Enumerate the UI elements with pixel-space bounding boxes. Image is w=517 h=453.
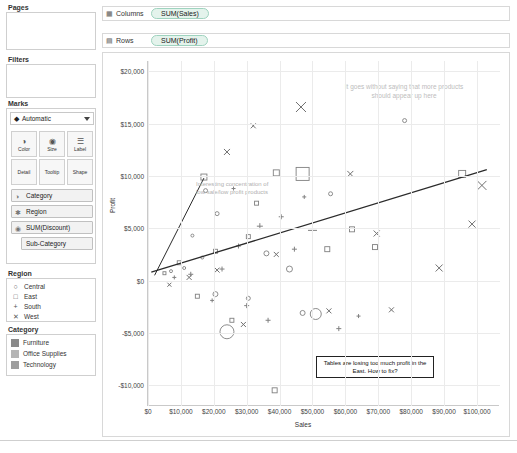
color-palette-icon: ◑ (22, 137, 27, 146)
data-point-east[interactable] (195, 294, 199, 298)
marks-card-title: Marks (8, 100, 28, 107)
marks-pill-region[interactable]: ✱ Region (11, 205, 93, 218)
rows-shelf[interactable]: ▤ Rows SUM(Profit) (102, 33, 510, 48)
data-point-east[interactable] (296, 167, 309, 180)
detail-button[interactable]: Detail (11, 159, 37, 185)
data-point-west[interactable] (224, 149, 230, 155)
data-point-central[interactable] (220, 325, 234, 339)
marks-buttons-row-1: ◑ Color ◉ Size ☰ Label (11, 131, 93, 157)
marks-pill-category[interactable]: ◑ Category (11, 189, 93, 202)
tableau-worksheet: Pages Filters Marks ◆ Automatic ◑ Color … (0, 0, 517, 453)
data-point-south[interactable] (336, 326, 341, 331)
rows-field-pill[interactable]: SUM(Profit) (151, 35, 208, 46)
data-point-west[interactable] (477, 181, 486, 190)
region-legend: ○ Central □ East + South ✕ West (6, 278, 96, 322)
data-point-south[interactable] (220, 267, 225, 272)
color-swatch (11, 361, 19, 369)
y-axis-tick: $10,000 (121, 173, 145, 180)
legend-item-technology[interactable]: Technology (11, 360, 56, 369)
data-point-central[interactable] (286, 266, 292, 272)
data-point-central[interactable] (329, 192, 333, 196)
mark-type-dropdown[interactable]: ◆ Automatic (10, 112, 94, 125)
tooltip-button[interactable]: Tooltip (39, 159, 65, 185)
data-point-south[interactable] (172, 275, 176, 279)
x-axis-tick: $90,000 (432, 408, 456, 415)
x-axis-tick: $0 (144, 408, 151, 415)
data-point-west[interactable] (296, 102, 306, 112)
legend-label: East (24, 293, 37, 300)
x-axis-tick: $70,000 (367, 408, 391, 415)
columns-shelf[interactable]: ▦ Columns SUM(Sales) (102, 6, 510, 21)
size-circle-icon: ◉ (15, 225, 21, 233)
annotation-left: Interesting concentration of low sale/lo… (196, 181, 278, 196)
size-button[interactable]: ◉ Size (39, 131, 65, 157)
data-point-west[interactable] (469, 221, 476, 228)
category-legend: Furniture Office Supplies Technology (6, 334, 96, 376)
data-point-central[interactable] (215, 212, 219, 216)
legend-item-west[interactable]: ✕ West (11, 312, 39, 321)
legend-item-east[interactable]: □ East (11, 292, 37, 301)
filters-shelf-title: Filters (8, 56, 29, 63)
gridline-vertical (411, 61, 412, 406)
x-axis-tick: $30,000 (235, 408, 259, 415)
color-swatch (11, 339, 19, 347)
gridline-horizontal (148, 333, 500, 334)
marks-pill-subcategory[interactable]: Sub-Category (21, 237, 93, 250)
legend-item-office-supplies[interactable]: Office Supplies (11, 349, 67, 358)
size-button-label: Size (47, 146, 57, 152)
data-point-central[interactable] (403, 119, 407, 123)
data-point-west[interactable] (274, 252, 279, 257)
data-point-west[interactable] (215, 268, 220, 273)
data-point-east[interactable] (272, 388, 277, 393)
y-axis-tick: $5,000 (124, 225, 144, 232)
data-point-east[interactable] (230, 318, 234, 322)
marks-buttons-row-2: Detail Tooltip Shape (11, 159, 93, 185)
data-point-south[interactable] (292, 247, 297, 252)
color-button[interactable]: ◑ Color (11, 131, 37, 157)
data-point-central[interactable] (191, 234, 194, 237)
data-point-central[interactable] (264, 251, 269, 256)
annotation-top: It goes without saying that more product… (344, 83, 464, 100)
legend-item-south[interactable]: + South (11, 302, 41, 311)
marks-pill-discount[interactable]: ◉ SUM(Discount) (11, 221, 93, 234)
y-axis-label: Profit (109, 198, 116, 213)
filters-shelf[interactable] (6, 64, 96, 98)
data-point-east[interactable] (325, 247, 330, 252)
cross-icon: ✕ (11, 313, 20, 321)
data-point-south[interactable] (357, 314, 361, 318)
label-button[interactable]: ☰ Label (67, 131, 93, 157)
columns-shelf-label: Columns (116, 10, 144, 17)
shape-button[interactable]: Shape (67, 159, 93, 185)
data-point-west[interactable] (436, 265, 443, 272)
data-point-east[interactable] (163, 272, 166, 275)
legend-item-furniture[interactable]: Furniture (11, 338, 49, 347)
marks-pill-label: Category (26, 192, 52, 199)
data-point-west[interactable] (389, 307, 394, 312)
data-point-south[interactable] (302, 195, 306, 199)
columns-grid-icon: ▦ (106, 10, 113, 18)
gridline-vertical (280, 61, 281, 406)
data-point-east[interactable] (255, 201, 259, 205)
viz-area[interactable]: Profit Sales It goes without saying that… (102, 52, 510, 437)
data-point-west[interactable] (167, 283, 171, 287)
annotation-callout: Tables are losing too much profit in the… (316, 356, 434, 378)
data-point-west[interactable] (187, 275, 192, 280)
data-point-east[interactable] (372, 245, 377, 250)
data-point-south[interactable] (266, 318, 271, 323)
columns-field-pill[interactable]: SUM(Sales) (151, 8, 209, 19)
data-point-central[interactable] (183, 267, 186, 270)
status-bar (0, 440, 517, 453)
color-button-label: Color (18, 146, 30, 152)
data-point-west[interactable] (326, 308, 331, 313)
x-axis-tick: $80,000 (399, 408, 423, 415)
legend-item-central[interactable]: ○ Central (11, 282, 45, 291)
data-point-central[interactable] (170, 270, 173, 273)
data-point-west[interactable] (241, 322, 246, 327)
pages-shelf[interactable] (6, 12, 96, 50)
data-point-east[interactable] (273, 170, 279, 176)
gridline-vertical (312, 61, 313, 406)
mark-type-value: Automatic (22, 115, 51, 122)
data-point-central[interactable] (300, 310, 305, 315)
scatter-plot[interactable]: It goes without saying that more product… (147, 61, 499, 406)
shape-button-label: Shape (73, 169, 87, 175)
